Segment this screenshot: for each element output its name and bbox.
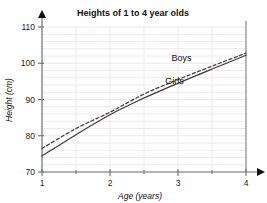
x-tick-label: 2 <box>108 178 113 188</box>
grid-lines <box>42 27 246 172</box>
series-label-boys: Boys <box>171 53 192 63</box>
chart-title: Heights of 1 to 4 year olds <box>77 8 189 18</box>
y-tick-label: 90 <box>26 95 36 105</box>
y-tick-label: 110 <box>21 22 35 32</box>
y-tick-label: 70 <box>26 167 36 177</box>
chart-container: 1234 708090100110 Heights of 1 to 4 year… <box>0 0 267 203</box>
x-tick-label: 3 <box>176 178 181 188</box>
x-tick-label: 4 <box>244 178 249 188</box>
y-tick-label: 80 <box>26 131 36 141</box>
y-axis-label: Height (cm) <box>4 78 14 122</box>
x-tick-label: 1 <box>40 178 45 188</box>
height-growth-line-chart: 1234 708090100110 Heights of 1 to 4 year… <box>0 0 267 203</box>
series-label-girls: Girls <box>165 76 184 86</box>
y-tick-label: 100 <box>21 58 35 68</box>
x-axis-label: Age (years) <box>117 191 162 201</box>
